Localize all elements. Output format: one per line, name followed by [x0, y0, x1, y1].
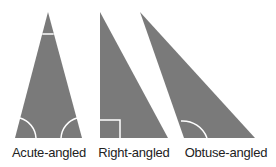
triangles-diagram	[0, 0, 276, 167]
right-triangle	[100, 12, 168, 138]
label-obtuse-angled: Obtuse-angled	[185, 145, 268, 160]
acute-triangle	[15, 12, 82, 138]
label-acute-angled: Acute-angled	[12, 145, 86, 160]
label-right-angled: Right-angled	[98, 145, 169, 160]
